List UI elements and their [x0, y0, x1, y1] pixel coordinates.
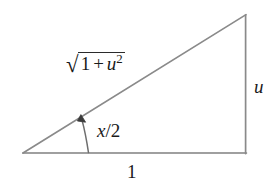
exponent: 2	[116, 51, 122, 66]
plus-operator: +	[90, 53, 107, 74]
triangle-hypotenuse-line	[23, 15, 246, 153]
angle-label: x/2	[97, 121, 120, 140]
hypotenuse-label: √1+u2	[66, 52, 125, 76]
figure-canvas: √1+u2 u 1 x/2	[0, 0, 277, 188]
angle-label-variable: x	[97, 120, 105, 141]
angle-arc-path	[82, 120, 89, 153]
vertical-leg-label: u	[254, 77, 264, 96]
radical-expression: √1+u2	[66, 52, 125, 76]
radicand-second-term: u	[107, 53, 117, 74]
triangle-drawing	[0, 0, 277, 188]
triangle-outline	[23, 15, 246, 154]
angle-arc-indicator	[77, 115, 88, 153]
radicand-first-term: 1	[81, 53, 91, 74]
base-label: 1	[127, 162, 137, 181]
radicand: 1+u2	[78, 52, 125, 73]
